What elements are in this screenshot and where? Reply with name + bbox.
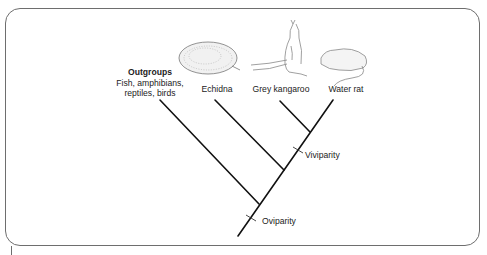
- cladogram-tree: [0, 0, 487, 255]
- oviparity-tick: [246, 215, 256, 221]
- outgroups-title: Outgroups: [110, 67, 190, 78]
- branch-echidna: [215, 100, 284, 170]
- outgroups-line-1: Fish, amphibians,: [110, 78, 190, 89]
- branch-grey-kangaroo: [280, 101, 310, 132]
- taxon-echidna: Echidna: [190, 84, 244, 95]
- kangaroo-icon: [251, 20, 307, 76]
- trait-viviparity: Viviparity: [305, 150, 340, 160]
- taxon-outgroups: Outgroups Fish, amphibians, reptiles, bi…: [110, 67, 190, 99]
- outgroups-line-2: reptiles, birds: [110, 88, 190, 99]
- taxon-grey-kangaroo: Grey kangaroo: [246, 84, 316, 95]
- branch-outgroups: [160, 100, 259, 204]
- viviparity-tick: [293, 147, 303, 153]
- trait-oviparity: Oviparity: [262, 216, 296, 226]
- taxon-water-rat: Water rat: [322, 84, 370, 95]
- water-rat-icon: [321, 49, 367, 86]
